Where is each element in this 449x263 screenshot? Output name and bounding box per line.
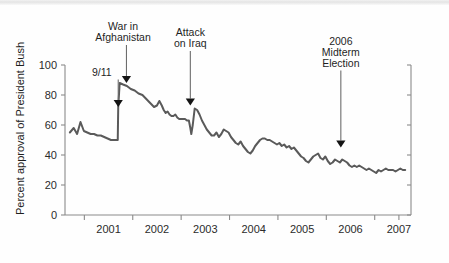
approval-line-chart: Percent approval of President Bush 02040…	[0, 0, 449, 263]
x-tick-label: 2002	[145, 223, 169, 235]
chart-annotation: 9/11	[92, 66, 123, 108]
chart-page: Percent approval of President Bush 02040…	[0, 0, 449, 263]
y-axis-title: Percent approval of President Bush	[14, 42, 26, 215]
y-axis-title-group: Percent approval of President Bush	[14, 42, 26, 215]
annotation-arrow-head	[122, 76, 131, 83]
y-tick-label: 0	[51, 209, 57, 221]
annotations-group: 9/11War inAfghanistanAttackon Iraq2006Mi…	[92, 20, 360, 148]
x-tick-label: 2006	[338, 223, 362, 235]
y-tick-label: 80	[45, 89, 57, 101]
y-tick-labels: 020406080100	[39, 59, 57, 221]
x-tick-label: 2005	[290, 223, 314, 235]
y-tick-label: 100	[39, 59, 57, 71]
annotation-arrow-head	[336, 141, 345, 148]
annotation-arrow-head	[186, 99, 195, 106]
x-tick-label: 2001	[96, 223, 120, 235]
annotation-label: Election	[322, 57, 360, 69]
y-tick-label: 60	[45, 119, 57, 131]
x-tick-label: 2003	[193, 223, 217, 235]
x-tick-label: 2004	[241, 223, 265, 235]
chart-annotation: Attackon Iraq	[174, 26, 207, 106]
y-tick-label: 20	[45, 179, 57, 191]
annotation-arrow-head	[114, 100, 123, 107]
annotation-label: Afghanistan	[95, 31, 151, 43]
series-line-approval	[70, 83, 405, 173]
chart-annotation: 2006MidtermElection	[322, 35, 360, 148]
annotation-label: on Iraq	[174, 37, 207, 49]
x-tick-labels: 2001200220032004200520062007	[96, 223, 411, 235]
x-tick-label: 2007	[387, 223, 411, 235]
annotation-label: 9/11	[92, 66, 112, 78]
y-tick-label: 40	[45, 149, 57, 161]
